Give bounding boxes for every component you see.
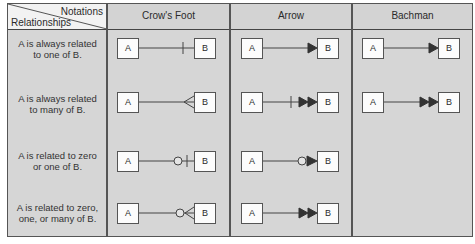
bachman-one-connector	[384, 43, 438, 53]
notation-comparison-table: Notations Relationships Crow's Foot Arro…	[7, 3, 473, 237]
entity-a-box: A	[241, 92, 263, 113]
arrow-zero-one-many-connector	[263, 208, 317, 218]
entity-a-box: A	[117, 203, 139, 224]
crows-foot-zero-one-many-connector	[139, 207, 194, 219]
entity-a-box: A	[241, 151, 263, 172]
entity-a-box: A	[362, 92, 384, 113]
bachman-many-connector	[384, 97, 438, 107]
crows-foot-many-connector	[139, 96, 194, 108]
entity-b-box: B	[194, 203, 216, 224]
entity-a-box: A	[117, 92, 139, 113]
entity-a-box: A	[117, 151, 139, 172]
entity-b-box: B	[438, 92, 460, 113]
entity-b-box: B	[194, 38, 216, 59]
entity-a-box: A	[362, 38, 384, 59]
entity-b-box: B	[317, 151, 339, 172]
entity-b-box: B	[317, 203, 339, 224]
arrow-many-connector	[263, 96, 317, 108]
entity-a-box: A	[117, 38, 139, 59]
crows-foot-zero-or-one-connector	[139, 155, 194, 167]
entity-b-box: B	[317, 92, 339, 113]
entity-a-box: A	[241, 38, 263, 59]
entity-b-box: B	[317, 38, 339, 59]
arrow-one-connector	[263, 43, 317, 53]
entity-b-box: B	[438, 38, 460, 59]
crows-foot-one-connector	[139, 42, 194, 54]
entity-b-box: B	[194, 92, 216, 113]
arrow-zero-or-one-connector	[263, 156, 317, 166]
entity-b-box: B	[194, 151, 216, 172]
entity-a-box: A	[241, 203, 263, 224]
